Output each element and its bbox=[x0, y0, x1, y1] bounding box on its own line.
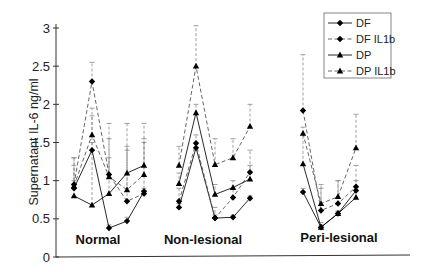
y-tick-label: 2 bbox=[43, 97, 50, 112]
diamond-marker bbox=[247, 169, 253, 175]
triangle-marker bbox=[141, 171, 147, 177]
triangle-marker bbox=[176, 162, 182, 168]
group-labels: NormalNon-lesionalPeri-lesional bbox=[76, 230, 378, 247]
diamond-marker bbox=[212, 215, 218, 221]
triangle-marker bbox=[247, 176, 253, 182]
series-line-df-il1b bbox=[303, 110, 356, 210]
y-tick-label: 0.5 bbox=[32, 211, 50, 226]
y-axis-title: Supernatant IL-6 ng/ml bbox=[27, 78, 41, 205]
series-line-df-il1b bbox=[179, 143, 250, 218]
diamond-marker bbox=[124, 198, 130, 204]
diamond-marker bbox=[124, 218, 130, 224]
triangle-marker bbox=[300, 160, 306, 166]
triangle-marker bbox=[124, 170, 130, 176]
y-tick-label: 0 bbox=[43, 250, 50, 265]
diamond-marker bbox=[335, 200, 341, 206]
legend-label: DP IL1b bbox=[356, 65, 396, 77]
x-axis bbox=[56, 255, 410, 257]
triangle-marker bbox=[141, 162, 147, 168]
diamond-marker bbox=[300, 189, 306, 195]
triangle-marker bbox=[176, 180, 182, 186]
legend-label: DP bbox=[356, 49, 371, 61]
triangle-marker bbox=[71, 193, 77, 199]
triangle-marker bbox=[247, 123, 253, 129]
y-tick-label: 1 bbox=[43, 173, 50, 188]
legend-label: DF bbox=[356, 17, 371, 29]
diamond-marker bbox=[89, 147, 95, 153]
chart: 00.511.522.53 Supernatant IL-6 ng/ml Nor… bbox=[0, 0, 426, 272]
diamond-marker bbox=[353, 184, 359, 190]
diamond-marker bbox=[193, 140, 199, 146]
triangle-marker bbox=[300, 130, 306, 136]
diamond-marker bbox=[106, 225, 112, 231]
diamond-marker bbox=[89, 78, 95, 84]
legend-label: DF IL1b bbox=[356, 33, 395, 45]
triangle-marker bbox=[353, 144, 359, 150]
y-tick-label: 3 bbox=[43, 21, 50, 36]
series-line-dp-il1b bbox=[179, 66, 250, 165]
triangle-marker bbox=[230, 184, 236, 190]
group-label: Normal bbox=[76, 232, 121, 247]
series-line-dp bbox=[303, 164, 356, 227]
diamond-marker bbox=[230, 194, 236, 200]
series-line-df bbox=[303, 191, 356, 228]
y-tick-label: 2.5 bbox=[32, 59, 50, 74]
group-label: Non-lesional bbox=[164, 232, 242, 247]
triangle-marker bbox=[89, 131, 95, 137]
triangle-marker bbox=[230, 154, 236, 160]
triangle-marker bbox=[335, 193, 341, 199]
diamond-marker bbox=[318, 207, 324, 213]
triangle-marker bbox=[193, 63, 199, 69]
group-label: Peri-lesional bbox=[300, 230, 377, 245]
series-line-dp bbox=[179, 113, 250, 195]
triangle-marker bbox=[193, 109, 199, 115]
triangle-marker bbox=[353, 194, 359, 200]
diamond-marker bbox=[300, 107, 306, 113]
triangle-marker bbox=[89, 202, 95, 208]
diamond-marker bbox=[176, 204, 182, 210]
legend: DFDF IL1bDPDP IL1b bbox=[324, 13, 396, 78]
error-bars bbox=[72, 26, 359, 228]
